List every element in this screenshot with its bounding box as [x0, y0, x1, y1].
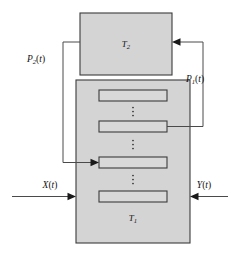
p1-arrowhead-icon	[172, 38, 181, 45]
y-signal-label-close: )	[208, 180, 211, 191]
x-signal-label: X(t)	[42, 180, 58, 191]
diagram-canvas: T2 T1 X(t) Y(t) P1(t) P2(t)	[0, 0, 240, 255]
ellipsis-2-icon	[132, 140, 134, 150]
y-input-arrowhead-icon	[190, 193, 199, 200]
y-signal-label: Y(t)	[197, 180, 211, 191]
inner-rect-1	[99, 90, 167, 101]
p1-signal-label-close: )	[201, 74, 204, 85]
x-input-arrowhead-icon	[68, 193, 77, 200]
block-diagram: T2 T1 X(t) Y(t) P1(t) P2(t)	[0, 0, 240, 255]
inner-rect-3	[99, 157, 167, 168]
p2-signal-label: P2(t)	[26, 54, 45, 65]
inner-rect-2	[99, 121, 167, 132]
ellipsis-3-icon	[132, 175, 134, 185]
ellipsis-1-icon	[132, 107, 134, 117]
lower-block-label-subscript: 1	[134, 217, 137, 224]
inner-rect-4	[99, 191, 167, 202]
p2-signal-label-close: )	[42, 54, 45, 65]
p1-signal-label: P1(t)	[185, 74, 204, 85]
x-signal-label-close: )	[54, 180, 57, 191]
